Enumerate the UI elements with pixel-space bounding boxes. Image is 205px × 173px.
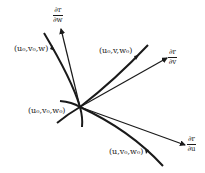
u-curve-label: (u,v₀,w₀) — [109, 148, 143, 156]
tangent-dr-dv-label: ∂r ∂v — [168, 49, 177, 66]
w-curve-label: (u₀,v₀,w) — [14, 45, 48, 53]
point-label: (u₀,v₀,w₀) — [28, 107, 65, 115]
diagram-drawing — [0, 0, 205, 173]
v-curve-label: (u₀,v,w₀) — [99, 47, 132, 55]
tangent-dr-dw-label: ∂r ∂w — [53, 7, 63, 24]
tangent-dr-du-label: ∂r ∂u — [187, 136, 196, 153]
dr-dv-arrow — [80, 58, 167, 107]
coordinate-curves-diagram: ∂r ∂w ∂r ∂v ∂r ∂u (u₀,v₀,w) (u₀,v,w₀) (u… — [0, 0, 205, 173]
